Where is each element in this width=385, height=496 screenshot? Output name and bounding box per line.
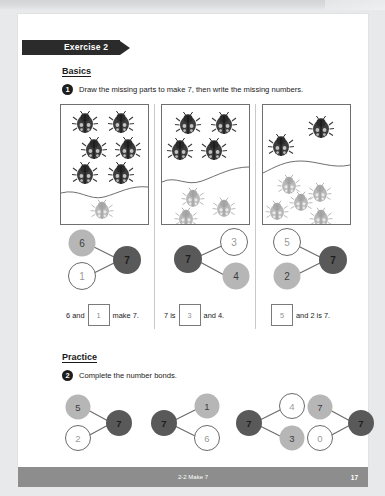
number-bond-practice-2[interactable]: 7 1 6 [145,392,229,450]
bond-part-bottom-label: 4 [233,271,239,282]
column-divider-2 [255,104,256,329]
bond-whole-label: 7 [358,418,363,429]
question-instruction: Draw the missing parts to make 7, then w… [79,85,303,94]
bond-part-top-label: 4 [289,401,294,412]
page-footer: 2-2 Make 7 17 [18,467,368,487]
ladybug-box-3-illustration [263,105,350,224]
banner-arrow-icon [120,41,130,55]
bond-part-bottom-label: 6 [204,433,209,444]
bond-part-top-label: 7 [317,402,322,413]
bond-whole-label: 7 [116,418,121,429]
practice-question-2: 2 Complete the number bonds. [62,370,177,381]
sentence-2-suffix: and 4. [204,311,225,320]
ladybug-box-2-illustration [162,105,249,224]
exercise-banner: Exercise 2 [22,40,130,55]
ladybug-box-3[interactable] [262,104,351,225]
bond-part-bottom-label: 0 [317,433,322,444]
bond-whole-label: 7 [246,418,251,429]
bond-whole-label: 7 [124,255,130,266]
question-number-badge: 1 [62,84,73,95]
sentence-2-prefix: 7 is [164,311,176,320]
sentence-1-prefix: 6 and [66,311,85,320]
bond-whole-label: 7 [161,418,166,429]
answer-box-3[interactable]: 5 [271,304,293,326]
sentence-1: 6 and 1 make 7. [66,304,139,326]
number-bond-practice-4[interactable]: 7 0 7 [300,392,384,450]
sentence-1-suffix: make 7. [113,311,139,320]
bond-whole-label: 7 [185,254,191,265]
column-divider-1 [154,104,155,329]
bond-part-bottom-label: 2 [75,433,80,444]
basics-heading: Basics [62,66,91,76]
sentence-2: 7 is 3 and 4. [164,304,224,326]
number-bond-basics-1[interactable]: 6 1 7 [60,226,150,288]
ladybug-box-1-illustration [61,105,148,224]
ladybug-box-2[interactable] [161,104,250,225]
answer-box-2[interactable]: 3 [179,304,201,326]
bond-part-top-label: 6 [79,238,85,249]
ladybug-box-1[interactable] [60,104,149,225]
sentence-3-suffix: and 2 is 7. [296,311,330,320]
bond-part-top-label: 1 [204,401,209,412]
footer-title: 2-2 Make 7 [18,467,368,487]
practice-heading: Practice [62,352,97,362]
number-bond-basics-3[interactable]: 5 2 7 [266,226,356,288]
number-bond-basics-2[interactable]: 7 3 4 [168,226,258,288]
window-top-strip [0,0,385,10]
bond-part-bottom-label: 1 [79,271,85,282]
answer-box-1[interactable]: 1 [88,304,110,326]
question-number-badge: 2 [62,370,73,381]
footer-page-number: 17 [351,467,358,487]
worksheet-page: Exercise 2 Basics 1 Draw the missing par… [18,14,368,467]
basics-question-1: 1 Draw the missing parts to make 7, then… [62,84,303,95]
bond-part-top-label: 5 [75,402,80,413]
bond-part-top-label: 5 [284,237,290,248]
sentence-3: 5 and 2 is 7. [271,304,330,326]
question-instruction: Complete the number bonds. [79,371,177,380]
bond-part-bottom-label: 2 [284,271,290,282]
exercise-banner-label: Exercise 2 [22,40,120,55]
bond-part-bottom-label: 3 [289,433,294,444]
number-bond-practice-1[interactable]: 5 2 7 [58,392,142,450]
bond-whole-label: 7 [330,255,336,266]
bond-part-top-label: 3 [231,237,237,248]
